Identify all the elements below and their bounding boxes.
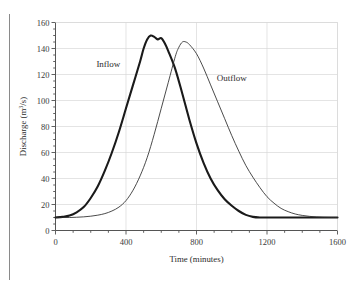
y-tick-label: 80 xyxy=(41,122,50,132)
y-tick-label: 160 xyxy=(37,18,50,28)
y-tick-label: 60 xyxy=(41,148,50,158)
x-tick-label: 800 xyxy=(190,237,203,247)
y-tick-label: 0 xyxy=(45,226,49,236)
y-tick-label: 40 xyxy=(41,174,50,184)
x-tick-label: 1200 xyxy=(259,237,276,247)
series-annotation-inflow: Inflow xyxy=(96,59,120,69)
x-tick-label: 0 xyxy=(53,237,57,247)
hydrograph-plot: 020406080100120140160040080012001600 Inf… xyxy=(0,0,359,286)
y-tick-label: 20 xyxy=(41,200,50,210)
x-tick-label: 1600 xyxy=(329,237,346,247)
y-tick-label: 100 xyxy=(37,96,50,106)
y-tick-label: 140 xyxy=(37,44,50,54)
series-annotation-outflow: Outflow xyxy=(217,73,247,83)
axis-ticks-layer xyxy=(52,23,338,235)
chart-figure: 020406080100120140160040080012001600 Inf… xyxy=(0,0,359,286)
y-axis-title: Discharge (m3/s) xyxy=(18,97,28,156)
y-tick-label: 120 xyxy=(37,70,50,80)
x-axis-title: Time (minutes) xyxy=(169,254,223,264)
axis-tick-labels-layer: 020406080100120140160040080012001600 xyxy=(37,18,346,247)
x-tick-label: 400 xyxy=(120,237,133,247)
